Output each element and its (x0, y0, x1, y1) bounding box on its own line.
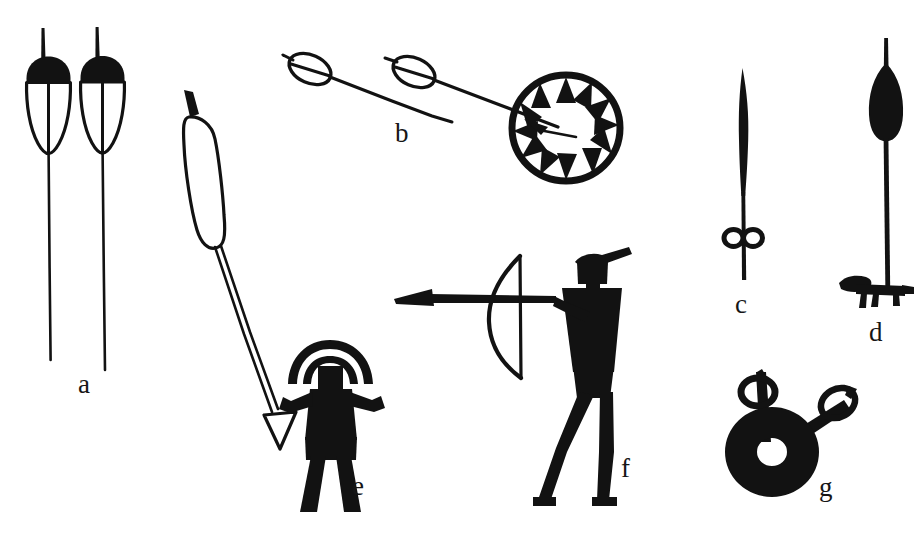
barbed-shaft-left-bar (291, 64, 330, 76)
ring-dart (557, 153, 577, 180)
harpoon-head-right-shaft (103, 153, 105, 371)
archer-leg-front (538, 392, 594, 502)
harpoon-head-left-shaft (49, 153, 51, 360)
label-d: d (869, 319, 883, 346)
label-a: a (78, 371, 90, 398)
harpoon-head-right (81, 27, 125, 370)
harpoon-head-right-tang (95, 27, 99, 61)
item-e-harpooner (184, 90, 385, 512)
harpooner-arm-right (350, 392, 385, 412)
archer-torso (562, 288, 622, 372)
crossbar-prong-3 (893, 294, 900, 306)
archer-arrow (394, 289, 556, 306)
archer-foot-back (592, 497, 617, 506)
label-e: e (352, 473, 364, 500)
ring-center-shaft (539, 130, 576, 137)
leaf-point-d-blade (869, 63, 903, 142)
item-f-archer (394, 247, 632, 506)
harpoon-line-outer (215, 247, 272, 412)
archer-head (577, 262, 608, 284)
harpooner-head (318, 366, 343, 392)
arrow-head (394, 289, 434, 306)
float-tip (184, 90, 199, 117)
blade-point-c-double-loop (724, 230, 763, 247)
harpooner-arm-left (279, 392, 313, 413)
item-d-leaf-point (839, 38, 914, 308)
harpooner-leg-left (300, 456, 326, 512)
item-c-blade-point (724, 68, 763, 280)
harpoon-head-right-cap (81, 56, 125, 82)
loop-left (724, 230, 743, 247)
label-c: c (735, 291, 747, 318)
leaf-point-d-crossbar-fitting (839, 276, 914, 308)
crossbar-prong-1 (859, 293, 867, 308)
float-bladder (184, 117, 225, 248)
bow-limb (489, 256, 521, 378)
barbed-shaft-right-bar (395, 67, 434, 79)
archer-leg-back (597, 392, 614, 500)
perforated-disc-body (725, 407, 819, 497)
archer-bow (489, 256, 521, 378)
archer-figure (533, 247, 632, 506)
blade-point-c-blade (739, 68, 749, 196)
harpoon-open-arrowhead (264, 412, 296, 449)
spoked-ring (512, 75, 620, 181)
archer-foot-front (533, 497, 556, 506)
harpooner-figure (279, 340, 385, 512)
plate-artwork (0, 0, 924, 536)
harpoon-line-inner (221, 246, 278, 409)
harpoon-head-left (27, 28, 71, 360)
bow-string (520, 256, 521, 378)
item-g-perforated-disc (725, 369, 861, 497)
harpoon-head-left-cap (27, 57, 71, 83)
ring-dart (594, 115, 619, 135)
figure-plate: a b c d e f g (0, 0, 924, 536)
label-b: b (395, 120, 409, 147)
label-g: g (819, 474, 833, 501)
crossbar-prong-2 (871, 294, 879, 307)
item-a-harpoon-heads (27, 27, 125, 370)
crossbar-right-tip (902, 285, 914, 294)
barbed-shaft-left (283, 47, 452, 122)
item-b-shafts-and-ring (283, 47, 620, 181)
harpooner-torso (305, 389, 357, 440)
harpoon-float-assembly (184, 90, 296, 449)
loop-right (744, 230, 763, 247)
label-f: f (621, 455, 630, 482)
ring-dart (556, 77, 576, 103)
leaf-point-d-shaft (884, 138, 891, 290)
